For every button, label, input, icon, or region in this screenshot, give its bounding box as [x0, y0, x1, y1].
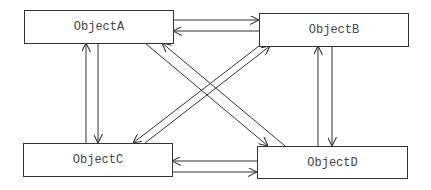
edge-a-to-d — [145, 43, 268, 146]
node-label: ObjectC — [73, 153, 123, 167]
node-object-a[interactable]: ObjectA — [24, 10, 174, 44]
node-label: ObjectA — [74, 20, 124, 34]
edge-b-to-c — [133, 46, 259, 143]
node-label: ObjectB — [309, 23, 359, 37]
node-label: ObjectD — [307, 156, 357, 170]
node-object-c[interactable]: ObjectC — [23, 143, 173, 177]
edge-d-to-a — [162, 43, 285, 146]
node-object-d[interactable]: ObjectD — [257, 146, 408, 179]
edge-c-to-b — [145, 46, 270, 143]
node-object-b[interactable]: ObjectB — [259, 13, 409, 47]
